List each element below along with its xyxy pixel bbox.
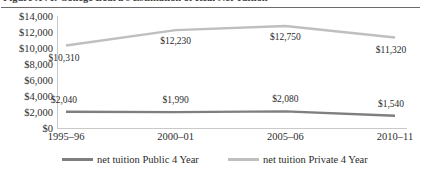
- x-axis-tick-label: 2010–11: [377, 131, 413, 142]
- data-point-label: $2,040: [51, 95, 77, 105]
- legend-item-label: net tuition Public 4 Year: [97, 154, 199, 165]
- data-point-label: $1,990: [163, 95, 189, 105]
- figure-container: Figure XVI: College Board's Estimation o…: [0, 0, 421, 174]
- series-line: [66, 111, 395, 115]
- legend-item[interactable]: net tuition Public 4 Year: [62, 154, 199, 165]
- y-axis-tick-label: $14,000: [1, 11, 53, 22]
- data-point-label: $1,540: [378, 99, 404, 109]
- data-point-label: $11,320: [376, 45, 407, 55]
- x-axis-line: [57, 128, 407, 129]
- y-axis-tick-label: $6,000: [1, 75, 53, 86]
- legend-item-label: net tuition Private 4 Year: [263, 154, 368, 165]
- data-point-label: $2,080: [272, 94, 298, 104]
- data-point-label: $10,310: [49, 53, 80, 63]
- y-axis-tick-label: $4,000: [1, 91, 53, 102]
- legend-line-swatch: [228, 158, 259, 161]
- legend-item[interactable]: net tuition Private 4 Year: [228, 154, 368, 165]
- y-axis-tick-label: $0: [1, 123, 53, 134]
- legend-line-swatch: [62, 158, 93, 161]
- y-axis-tick-label: $12,000: [1, 27, 53, 38]
- y-axis-tick-label: $8,000: [1, 59, 53, 70]
- x-axis-tick-label: 1995–96: [48, 131, 85, 142]
- data-point-label: $12,230: [160, 36, 191, 46]
- data-point-label: $12,750: [270, 32, 301, 42]
- x-axis-labels: 1995–962000–012005–062010–11: [57, 131, 407, 145]
- chart-series-layer: [0, 0, 421, 174]
- chart-legend: net tuition Public 4 Yearnet tuition Pri…: [0, 152, 421, 174]
- y-axis-tick-label: $2,000: [1, 107, 53, 118]
- series-line: [66, 26, 395, 46]
- y-axis-labels: $14,000$12,000$10,000$8,000$6,000$4,000$…: [0, 0, 53, 174]
- y-axis-tick-label: $10,000: [1, 43, 53, 54]
- y-axis-line: [57, 16, 58, 129]
- title-divider: [1, 7, 420, 8]
- x-axis-tick-label: 2005–06: [267, 131, 304, 142]
- x-axis-tick-label: 2000–01: [157, 131, 194, 142]
